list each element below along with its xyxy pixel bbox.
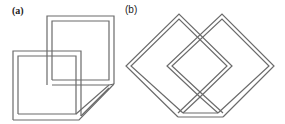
left-diamond-outer [126,14,232,117]
right-leg-outer [200,97,218,113]
panel-b-drawing [126,14,274,117]
right-diamond-outer [167,14,274,117]
diagram-canvas [0,0,285,124]
right-leg-inner [200,92,223,113]
right-diamond-inner [172,19,269,113]
fold-strip-middle [81,88,109,116]
left-diamond-inner [131,19,227,113]
panel-a-drawing [13,16,114,120]
left-leg-inner [178,92,200,113]
